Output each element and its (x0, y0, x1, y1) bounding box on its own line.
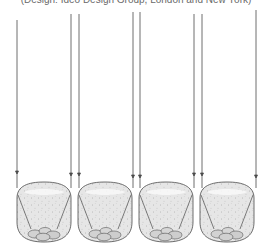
strings (16, 10, 258, 188)
vessel-3 (139, 182, 193, 242)
vessel-2 (78, 182, 132, 242)
vessel-4 (200, 182, 254, 242)
hanging-vessels-illustration (0, 0, 272, 252)
vessel-1 (17, 182, 71, 242)
